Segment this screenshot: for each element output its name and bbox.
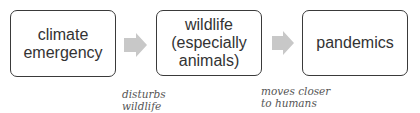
edge-label-disturbs-wildlife: disturbs wildlife (122, 88, 166, 112)
node-label-line: emergency (23, 44, 102, 62)
node-label: pandemics (316, 34, 393, 52)
edge-label-line: disturbs (122, 88, 166, 100)
edge-label-line: to humans (261, 97, 330, 109)
edge-label-line: moves closer (261, 85, 330, 97)
node-label-line: (especially (171, 34, 247, 52)
node-climate-emergency: climate emergency (10, 10, 116, 77)
edge-label-moves-closer: moves closer to humans (261, 85, 330, 109)
node-pandemics: pandemics (302, 10, 408, 76)
node-label-line: climate (23, 26, 102, 44)
node-label-line: wildlife (171, 16, 247, 34)
right-arrow-icon (272, 31, 294, 55)
right-arrow-icon (124, 33, 147, 57)
node-wildlife: wildlife (especially animals) (156, 10, 262, 76)
node-label: climate emergency (23, 26, 102, 62)
node-label-line: animals) (171, 52, 247, 70)
edge-label-line: wildlife (122, 100, 166, 112)
node-label: wildlife (especially animals) (171, 16, 247, 70)
